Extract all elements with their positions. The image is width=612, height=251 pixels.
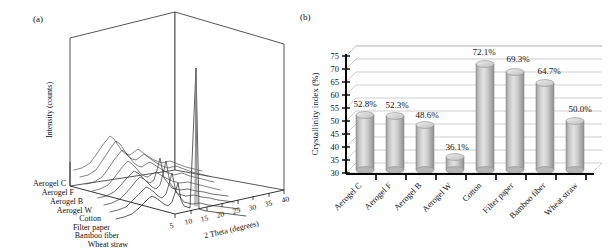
series-label: Cotton (79, 214, 101, 223)
x-tick-label: 30 (248, 202, 258, 213)
bar-filter-paper[interactable] (506, 69, 524, 174)
bar-cotton[interactable] (476, 61, 494, 174)
series-labels: Aerogel C Aerogel F Aerogel B Aerogel W … (33, 179, 128, 249)
y-tick-label: 65 (331, 77, 340, 87)
x-tick-label: 25 (232, 205, 242, 216)
panel-label-a: (a) (33, 14, 43, 24)
category-label: Aerogel B (391, 180, 423, 212)
panel-b-crystallinity-bar: 75 70 65 60 55 50 45 40 35 30 Crystallin… (306, 0, 612, 251)
data-label: 64.7% (537, 66, 561, 76)
bar-aerogel-w[interactable] (446, 154, 464, 174)
bars (356, 61, 584, 174)
series-label: Bamboo fiber (75, 231, 120, 240)
data-label: 36.1% (445, 142, 469, 152)
bar-bamboo-fiber[interactable] (536, 80, 554, 174)
x-axis-title: 2 Theta (degrees) (203, 219, 260, 240)
y-tick-label: 30 (331, 168, 340, 178)
category-label: Aerogel C (331, 180, 363, 212)
bar-aerogel-b[interactable] (416, 122, 434, 174)
bar-wheat-straw[interactable] (566, 118, 584, 174)
y-axis-title: Crystallinity index (%) (310, 73, 320, 156)
series-label: Aerogel F (42, 188, 75, 197)
x-tick-label: 40 (281, 194, 291, 205)
y-tick-label: 45 (331, 129, 340, 139)
bar-aerogel-c[interactable] (356, 112, 374, 174)
series-label: Aerogel B (50, 197, 83, 206)
category-label: Wheat straw (542, 180, 580, 218)
x-tick-label: 20 (216, 209, 226, 220)
x-tick-label: 35 (264, 198, 274, 209)
y-tick-label: 35 (331, 155, 340, 165)
data-label: 52.3% (385, 100, 409, 110)
panel-a-xrd-waterfall: 5 10 15 20 25 30 35 40 2 Theta (degrees)… (0, 0, 306, 251)
x-axis (346, 174, 594, 180)
data-label: 52.8% (353, 99, 377, 109)
panel-label-b: (b) (300, 12, 311, 22)
category-label: Aerogel W (420, 180, 453, 213)
crystallinity-bar-chart: 75 70 65 60 55 50 45 40 35 30 Crystallin… (306, 0, 612, 251)
data-label: 69.3% (506, 54, 530, 64)
series-label: Aerogel C (33, 179, 66, 188)
category-labels: Aerogel C Aerogel F Aerogel B Aerogel W … (331, 180, 580, 221)
data-label: 48.6% (415, 110, 439, 120)
y-tick-label: 55 (331, 103, 340, 113)
y-tick-label: 75 (331, 51, 340, 61)
data-label: 72.1% (472, 47, 496, 57)
x-tick-label: 15 (200, 213, 210, 224)
y-axis-title: Intensity (counts) (45, 82, 54, 139)
y-axis (342, 54, 350, 174)
figure-root: 5 10 15 20 25 30 35 40 2 Theta (degrees)… (0, 0, 612, 251)
bar-aerogel-f[interactable] (386, 113, 404, 174)
xrd-3d-plot: 5 10 15 20 25 30 35 40 2 Theta (degrees)… (0, 0, 306, 251)
series-label: Wheat straw (88, 240, 128, 249)
data-label: 50.0% (568, 104, 592, 114)
category-label: Aerogel F (362, 180, 393, 211)
y-tick-label: 40 (331, 142, 340, 152)
x-tick-label: 10 (184, 216, 194, 227)
y-tick-label: 50 (331, 116, 340, 126)
y-tick-label: 60 (331, 90, 340, 100)
category-label: Cotton (460, 180, 484, 204)
y-tick-label: 70 (331, 64, 340, 74)
x-tick-label: 5 (169, 221, 175, 231)
y-tick-labels: 75 70 65 60 55 50 45 40 35 30 (331, 51, 340, 178)
plot-floor (346, 163, 602, 173)
